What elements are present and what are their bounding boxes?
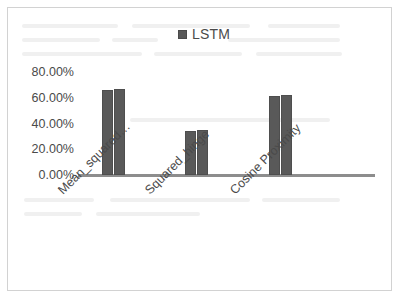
bars-layer — [0, 0, 401, 302]
chart-plot-area: LSTM 80.00% 60.00% 40.00% 20.00% 0.00% M… — [0, 0, 401, 302]
